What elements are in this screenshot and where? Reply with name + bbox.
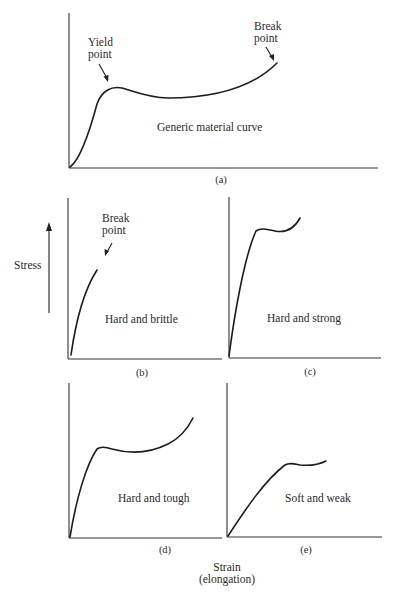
stress-axis-label: Stress [14, 222, 52, 313]
panel-d: Hard and tough (d) [69, 383, 222, 556]
yield-arrowhead-icon [104, 75, 109, 82]
panel-a-title: Generic material curve [157, 121, 262, 133]
break-point-label: Break [254, 20, 282, 32]
panel-a-curve [70, 63, 277, 167]
yield-point-label: Yield [88, 36, 113, 48]
strain-label: Strain [213, 561, 241, 573]
panel-d-title: Hard and tough [118, 492, 190, 505]
strain-axis-label: Strain (elongation) [199, 561, 255, 586]
panel-b-title: Hard and brittle [105, 313, 178, 325]
panel-c: Hard and strong (c) [229, 197, 381, 378]
panel-a: Yield point Break point Generic material… [69, 13, 378, 186]
panel-b-curve [71, 270, 97, 355]
break-arrowhead-icon [269, 54, 274, 61]
panel-d-caption: (d) [159, 544, 172, 556]
stress-label: Stress [14, 259, 42, 271]
panel-b-caption: (b) [136, 367, 149, 379]
panel-a-caption: (a) [215, 174, 227, 186]
panel-e: Soft and weak (e) [227, 383, 382, 556]
break-point-label-line2: point [254, 32, 278, 45]
stress-strain-figure: Yield point Break point Generic material… [0, 0, 396, 595]
stress-arrowhead-icon [46, 222, 52, 231]
panel-b-break-label: Break [102, 212, 130, 224]
elongation-label: (elongation) [199, 573, 255, 586]
panel-c-caption: (c) [304, 366, 316, 378]
yield-point-label-line2: point [88, 48, 112, 61]
panel-d-curve [70, 418, 193, 537]
panel-b-break-label-line2: point [102, 224, 126, 237]
panel-b: Break point Hard and brittle (b) [68, 198, 222, 379]
panel-e-title: Soft and weak [285, 492, 351, 504]
panel-c-curve [229, 218, 300, 356]
panel-c-title: Hard and strong [267, 312, 341, 325]
panel-e-caption: (e) [300, 544, 312, 556]
